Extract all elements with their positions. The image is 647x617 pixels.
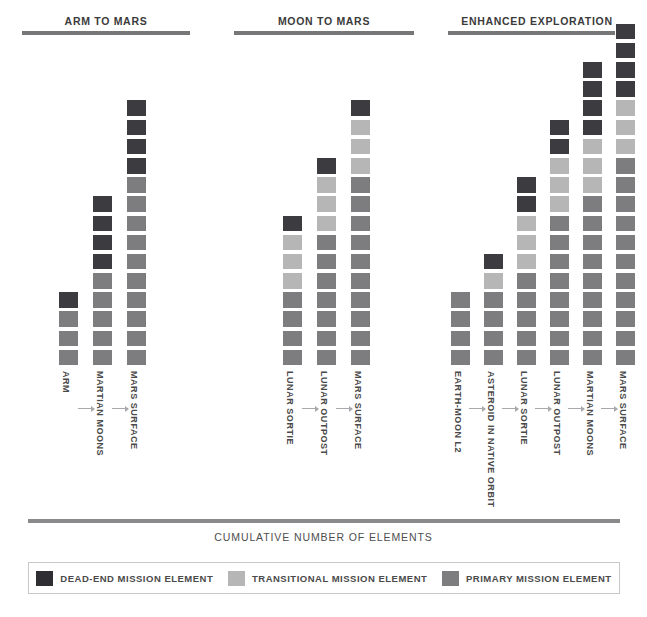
legend-swatch-transitional-icon [228,571,245,586]
chart-cell-primary [483,310,504,328]
axis-label-earth-moon-l2: EARTH-MOON L2 [453,371,463,453]
flow-arrow [601,404,618,413]
chart-cell-primary [483,349,504,367]
chart-cell-primary [316,272,337,290]
chart-cell-transitional [316,176,337,194]
legend-label-deadend: DEAD-END MISSION ELEMENT [60,573,213,584]
column-lunar-outpost-g2[interactable] [314,157,338,368]
legend-swatch-deadend-icon [36,571,53,586]
flow-arrow [535,404,552,413]
chart-cell-deadend [615,80,636,98]
chart-cell-primary [516,349,537,367]
legend-item-transitional[interactable]: TRANSITIONAL MISSION ELEMENT [228,571,427,586]
chart-cell-deadend [92,195,113,213]
legend-item-primary[interactable]: PRIMARY MISSION ELEMENT [442,571,612,586]
chart-cell-primary [615,195,636,213]
column-arm[interactable] [56,291,80,368]
chart-cell-primary [549,215,570,233]
chart-cell-transitional [316,195,337,213]
chart-cell-transitional [615,119,636,137]
chart-cell-primary [615,176,636,194]
column-mars-surface-g2[interactable] [348,99,372,368]
axis-caption: CUMULATIVE NUMBER OF ELEMENTS [0,531,647,543]
chart-cell-primary [316,349,337,367]
axis-label-lunar-outpost-g3: LUNAR OUTPOST [552,371,562,456]
column-mars-surface-g1[interactable] [124,99,148,368]
column-lunar-sortie-g2[interactable] [280,215,304,369]
chart-cell-primary [350,272,371,290]
column-martian-moons-g3[interactable] [580,61,604,368]
chart-cell-deadend [615,42,636,60]
chart-cell-deadend [549,119,570,137]
chart-cell-primary [582,330,603,348]
chart-cell-deadend [126,99,147,117]
chart-cell-transitional [282,253,303,271]
chart-cell-transitional [316,215,337,233]
chart-cell-deadend [582,99,603,117]
chart-cell-primary [450,330,471,348]
chart-cell-deadend [126,138,147,156]
column-lunar-outpost-g3[interactable] [547,119,571,368]
chart-cell-transitional [615,99,636,117]
chart-cell-primary [615,349,636,367]
chart-cell-primary [516,330,537,348]
axis-label-lunar-sortie-g3: LUNAR SORTIE [519,371,529,445]
chart-cell-deadend [582,80,603,98]
chart-cell-primary [549,272,570,290]
chart-cell-transitional [350,138,371,156]
chart-cell-primary [282,349,303,367]
chart-cell-transitional [549,157,570,175]
legend-label-primary: PRIMARY MISSION ELEMENT [466,573,612,584]
flow-arrow [112,404,129,413]
chart-cell-transitional [483,272,504,290]
chart-cell-primary [316,234,337,252]
chart-page: ARM TO MARS MOON TO MARS ENHANCED EXPLOR… [0,0,647,617]
chart-cell-primary [615,272,636,290]
chart-cell-primary [350,349,371,367]
chart-cell-primary [350,330,371,348]
chart-cell-primary [582,215,603,233]
chart-cell-deadend [615,23,636,41]
axis-label-lunar-outpost-g2: LUNAR OUTPOST [319,371,329,456]
chart-cell-primary [582,195,603,213]
chart-cell-deadend [92,253,113,271]
chart-cell-transitional [282,272,303,290]
chart-cell-primary [350,234,371,252]
chart-cell-primary [549,310,570,328]
flow-arrow [502,404,519,413]
flow-arrow [568,404,585,413]
chart-cell-primary [58,310,79,328]
column-earth-moon-l2[interactable] [448,291,472,368]
column-lunar-sortie-g3[interactable] [514,176,538,368]
chart-cell-primary [58,349,79,367]
axis-label-mars-surface-g2: MARS SURFACE [353,371,363,450]
chart-cell-primary [350,176,371,194]
chart-cell-transitional [549,195,570,213]
chart-cell-primary [582,291,603,309]
column-mars-surface-g3[interactable] [613,23,637,368]
chart-cell-primary [126,215,147,233]
column-martian-moons-g1[interactable] [90,195,114,368]
chart-cell-primary [582,349,603,367]
chart-cell-primary [126,349,147,367]
flow-arrow [336,404,353,413]
chart-cell-primary [316,291,337,309]
chart-cell-transitional [582,157,603,175]
chart-cell-transitional [582,176,603,194]
chart-cell-primary [516,310,537,328]
chart-cell-primary [549,253,570,271]
chart-cell-deadend [483,253,504,271]
chart-cell-primary [615,157,636,175]
chart-cell-deadend [92,215,113,233]
chart-cell-deadend [516,176,537,194]
legend-label-transitional: TRANSITIONAL MISSION ELEMENT [252,573,427,584]
chart-cell-primary [549,234,570,252]
chart-cell-primary [483,291,504,309]
axis-label-martian-moons-g1: MARTIAN MOONS [95,371,105,456]
chart-cell-deadend [126,157,147,175]
chart-cell-primary [92,291,113,309]
chart-cell-primary [615,291,636,309]
legend-item-deadend[interactable]: DEAD-END MISSION ELEMENT [36,571,213,586]
column-asteroid-native-orbit[interactable] [481,253,505,368]
chart-cell-primary [350,195,371,213]
